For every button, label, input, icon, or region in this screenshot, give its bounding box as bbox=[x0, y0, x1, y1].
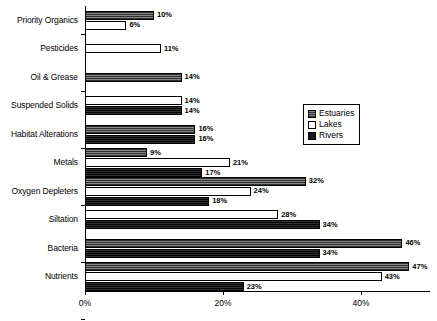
legend-swatch-estuaries bbox=[308, 110, 316, 118]
x-axis-tick bbox=[361, 291, 362, 295]
category-row: Siltation28%34% bbox=[85, 206, 430, 235]
bar-value-label: 43% bbox=[385, 273, 400, 281]
category-label: Priority Organics bbox=[17, 16, 78, 25]
category-row: Priority Organics10%6% bbox=[85, 6, 430, 35]
bar-value-label: 18% bbox=[212, 198, 227, 206]
bar-rivers bbox=[85, 282, 244, 291]
bar-value-label: 14% bbox=[185, 107, 200, 115]
bar-value-label: 24% bbox=[254, 188, 269, 196]
bar-value-label: 16% bbox=[198, 126, 213, 134]
legend-label-estuaries: Estuaries bbox=[319, 109, 354, 118]
bar-rivers bbox=[85, 249, 320, 258]
bar-estuaries bbox=[85, 239, 402, 248]
category-row: Habitat Alterations16%16% bbox=[85, 120, 430, 149]
bar-value-label: 17% bbox=[205, 169, 220, 177]
bar-value-label: 6% bbox=[129, 22, 140, 30]
category-row: Oxygen Depleters32%24%18% bbox=[85, 177, 430, 206]
bar-value-label: 23% bbox=[247, 283, 262, 291]
category-label: Oil & Grease bbox=[31, 73, 78, 82]
x-axis-tick bbox=[223, 291, 224, 295]
legend-item-estuaries: Estuaries bbox=[308, 108, 354, 119]
category-row: Oil & Grease14% bbox=[85, 63, 430, 92]
y-axis-tick bbox=[81, 319, 85, 320]
bar-rivers bbox=[85, 220, 320, 229]
category-row: Metals9%21%17% bbox=[85, 149, 430, 178]
bar-lakes bbox=[85, 187, 251, 196]
legend-label-rivers: Rivers bbox=[319, 131, 343, 140]
bar-value-label: 14% bbox=[185, 97, 200, 105]
bar-value-label: 21% bbox=[233, 159, 248, 167]
bar-value-label: 34% bbox=[323, 250, 338, 258]
x-axis-tick-label: 40% bbox=[352, 299, 369, 308]
bar-chart: Priority Organics10%6%Pesticides11%Oil &… bbox=[0, 0, 437, 321]
bar-value-label: 28% bbox=[281, 211, 296, 219]
legend-label-lakes: Lakes bbox=[319, 120, 342, 129]
bar-value-label: 9% bbox=[150, 149, 161, 157]
x-axis-tick bbox=[85, 291, 86, 295]
bar-rivers bbox=[85, 106, 182, 115]
bar-value-label: 14% bbox=[185, 74, 200, 82]
bar-estuaries bbox=[85, 148, 147, 157]
bar-estuaries bbox=[85, 125, 195, 134]
bar-lakes bbox=[85, 210, 278, 219]
bar-estuaries bbox=[85, 73, 182, 82]
bar-lakes bbox=[85, 96, 182, 105]
category-label: Siltation bbox=[49, 215, 78, 224]
bar-rivers bbox=[85, 135, 195, 144]
bar-value-label: 16% bbox=[198, 136, 213, 144]
category-label: Oxygen Depleters bbox=[12, 187, 78, 196]
category-row: Suspended Solids14%14% bbox=[85, 92, 430, 121]
x-axis-tick-label: 20% bbox=[214, 299, 231, 308]
legend-item-rivers: Rivers bbox=[308, 130, 354, 141]
bar-estuaries bbox=[85, 262, 409, 271]
bar-lakes bbox=[85, 158, 230, 167]
bar-rivers bbox=[85, 197, 209, 206]
category-row: Pesticides11% bbox=[85, 35, 430, 64]
category-label: Bacteria bbox=[48, 244, 78, 253]
bar-value-label: 34% bbox=[323, 221, 338, 229]
bar-value-label: 47% bbox=[412, 263, 427, 271]
bar-value-label: 11% bbox=[164, 45, 179, 53]
x-axis-tick-label: 0% bbox=[79, 299, 91, 308]
category-label: Suspended Solids bbox=[11, 101, 78, 110]
legend-swatch-rivers bbox=[308, 132, 316, 140]
legend: EstuariesLakesRivers bbox=[303, 104, 360, 145]
category-label: Pesticides bbox=[40, 44, 78, 53]
legend-swatch-lakes bbox=[308, 121, 316, 129]
category-label: Habitat Alterations bbox=[11, 130, 78, 139]
bar-value-label: 46% bbox=[405, 240, 420, 248]
category-label: Nutrients bbox=[45, 272, 78, 281]
plot-area: Priority Organics10%6%Pesticides11%Oil &… bbox=[85, 6, 430, 291]
legend-item-lakes: Lakes bbox=[308, 119, 354, 130]
category-row: Nutrients47%43%23% bbox=[85, 263, 430, 292]
category-row: Bacteria46%34% bbox=[85, 234, 430, 263]
bar-estuaries bbox=[85, 11, 154, 20]
bar-lakes bbox=[85, 21, 126, 30]
bar-value-label: 32% bbox=[309, 178, 324, 186]
bar-lakes bbox=[85, 44, 161, 53]
bar-value-label: 10% bbox=[157, 12, 172, 20]
bar-estuaries bbox=[85, 177, 306, 186]
category-label: Metals bbox=[54, 158, 78, 167]
bar-lakes bbox=[85, 272, 382, 281]
